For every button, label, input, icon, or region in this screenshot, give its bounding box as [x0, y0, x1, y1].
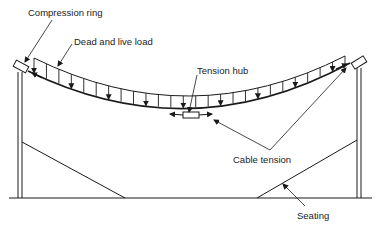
left-compression-ring-block	[13, 60, 29, 73]
cable-roof-diagram: Compression ring Dead and live load Tens…	[0, 0, 379, 230]
cable-tension-arrow-left	[170, 114, 183, 115]
right-seating	[257, 140, 357, 198]
left-column	[18, 72, 22, 198]
label-cable-tension: Cable tension	[233, 154, 291, 165]
cable-tension-arrow-right	[199, 114, 212, 115]
tension-hub	[183, 112, 199, 118]
cable-tension-arrow-left-end	[32, 73, 42, 78]
load-verticals	[34, 56, 345, 108]
right-compression-ring-block	[351, 56, 367, 69]
leader-compression-ring	[25, 20, 52, 62]
right-column	[357, 68, 361, 198]
left-seating	[22, 142, 125, 198]
leader-cable-tension-left	[214, 120, 270, 150]
leader-seating	[283, 184, 305, 206]
label-dead-live-load: Dead and live load	[74, 36, 153, 47]
cable-curve	[28, 63, 350, 109]
label-tension-hub: Tension hub	[197, 65, 248, 76]
leader-dead-live-load	[58, 44, 72, 66]
diagram-canvas: Compression ring Dead and live load Tens…	[0, 0, 379, 230]
load-top-line	[34, 56, 345, 96]
label-seating: Seating	[297, 210, 329, 221]
label-compression-ring: Compression ring	[28, 7, 102, 18]
